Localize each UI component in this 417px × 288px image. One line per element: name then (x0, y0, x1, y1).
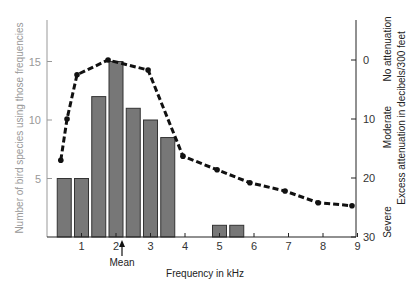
x-axis-title: Frequency in kHz (166, 268, 244, 279)
bar (230, 225, 244, 237)
bar (75, 179, 89, 238)
bar (109, 62, 123, 238)
x-tick-label: 2 (113, 240, 119, 252)
bar (57, 179, 71, 238)
y2-axis-title: Excess attenuation in decibels/300 feet (396, 31, 407, 205)
mean-label: Mean (109, 257, 134, 268)
y-axis-title: Number of bird species using those frequ… (14, 22, 25, 233)
bar (144, 120, 158, 237)
attenuation-point (145, 67, 151, 73)
attenuation-point (74, 72, 80, 78)
severe-label: Severe (382, 206, 393, 238)
attenuation-point (214, 167, 220, 173)
x-tick-label: 5 (216, 240, 222, 252)
x-tick-label: 1 (78, 240, 84, 252)
no-attenuation-label: No attenuation (382, 16, 393, 81)
bar (92, 97, 106, 237)
x-tick-label: 8 (320, 240, 326, 252)
y2-tick-label: 20 (363, 172, 375, 184)
attenuation-point (64, 116, 70, 122)
attenuation-point (180, 153, 186, 159)
bar (126, 108, 140, 237)
x-tick-label: 4 (182, 240, 188, 252)
mean-arrowhead-icon (119, 240, 125, 247)
attenuation-point (58, 158, 64, 164)
moderate-label: Moderate (382, 105, 393, 148)
attenuation-frequency-chart: 123456789510150102030 Number of bird spe… (0, 0, 417, 288)
attenuation-point (349, 203, 355, 209)
bar (161, 138, 175, 237)
y-tick-label: 5 (35, 173, 41, 185)
x-tick-label: 6 (251, 240, 257, 252)
x-tick-label: 9 (354, 240, 360, 252)
labels-group: Number of bird species using those frequ… (14, 16, 407, 279)
attenuation-point (315, 200, 321, 206)
bars-group (57, 62, 244, 238)
attenuation-point (282, 188, 288, 194)
x-tick-label: 7 (285, 240, 291, 252)
y-tick-label: 10 (29, 114, 41, 126)
x-tick-label: 3 (147, 240, 153, 252)
attenuation-point (247, 180, 253, 186)
y2-tick-label: 30 (363, 231, 375, 243)
y2-tick-label: 0 (363, 54, 369, 66)
y2-tick-label: 10 (363, 113, 375, 125)
y-tick-label: 15 (29, 56, 41, 68)
attenuation-point (105, 57, 111, 63)
